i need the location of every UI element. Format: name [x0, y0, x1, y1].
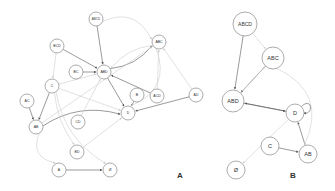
edge-ac-to-ab	[29, 108, 33, 120]
node-bd: BD	[70, 145, 84, 159]
node-label: ABCD	[92, 17, 101, 21]
node-abd: ABD	[222, 90, 244, 112]
node-label: BC	[74, 70, 79, 74]
panel-b-label: B	[290, 171, 296, 180]
edge-bcd-to-c	[53, 53, 56, 78]
node-label: C	[268, 143, 272, 149]
node-d: D	[121, 106, 135, 120]
panel-b-nodes: ABCDABCABDDCABØ	[222, 12, 317, 179]
panel-a-graph: ABCDBCDBCABDABCCBACDADACABCDDBDAØ A	[20, 12, 203, 180]
node-d: D	[286, 104, 304, 122]
node-label: ABC	[267, 55, 278, 61]
edge-ab-to-a	[37, 133, 56, 163]
node-cd: CD	[71, 115, 85, 129]
edge-abcd-to-abc	[253, 33, 266, 48]
edge-abcd-to-abc	[103, 17, 152, 39]
node-label: AC	[25, 99, 30, 103]
node-label: AD	[194, 93, 199, 97]
node-bcd: BCD	[50, 39, 64, 53]
edge-acd-to-abd	[111, 75, 150, 93]
node-label: Ø	[234, 167, 239, 173]
node-ab: AB	[29, 120, 43, 134]
edge-d-to-abd	[245, 103, 286, 111]
node-abd: ABD	[97, 65, 111, 79]
node-label: Ø	[109, 168, 112, 172]
node-acd: ACD	[150, 89, 164, 103]
node-label: BCD	[53, 44, 61, 48]
node-abcd: ABCD	[89, 12, 103, 26]
node-empty: Ø	[227, 161, 245, 179]
node-a: A	[52, 163, 66, 177]
edge-bcd-to-abd	[63, 49, 97, 68]
node-label: D	[293, 110, 297, 116]
edge-c-to-d	[59, 88, 121, 110]
node-label: ABD	[227, 98, 238, 104]
edge-abd-to-abc	[240, 67, 264, 93]
node-b: B	[130, 88, 144, 102]
node-abc: ABC	[152, 35, 166, 49]
node-label: AB	[34, 125, 39, 129]
node-ad: AD	[189, 88, 203, 102]
edge-c-to-ab	[279, 148, 298, 152]
node-c: C	[45, 79, 59, 93]
panel-a-label: A	[177, 171, 183, 180]
edge-bd-to-d	[83, 118, 122, 148]
edge-abd-to-d	[108, 78, 124, 106]
node-ab: AB	[299, 145, 317, 163]
panel-b-graph: ABCDABCABDDCABØ B	[222, 12, 317, 180]
node-ac: AC	[20, 94, 34, 108]
node-label: BD	[75, 150, 80, 154]
edge-abcd-to-abd	[235, 36, 243, 89]
edge-abcd-to-abd	[97, 26, 103, 64]
edge-abc-to-abd	[111, 45, 153, 68]
node-label: ABCD	[238, 21, 252, 27]
edge-c-to-ab	[39, 93, 50, 120]
node-label: CD	[75, 120, 81, 124]
node-abc: ABC	[262, 47, 284, 69]
state-transition-diagram: ABCDBCDBCABDABCCBACDADACABCDDBDAØ A ABCD…	[0, 0, 335, 191]
node-c: C	[261, 137, 279, 155]
panel-a-nodes: ABCDBCDBCABDABCCBACDADACABCDDBDAØ	[20, 12, 203, 177]
node-label: AB	[304, 151, 312, 157]
edge-abd-to-abc	[110, 46, 152, 69]
edge-ab-to-d	[298, 123, 305, 146]
node-abcd: ABCD	[233, 12, 257, 36]
node-bc: BC	[69, 65, 83, 79]
node-label: ACD	[153, 94, 161, 98]
node-empty: Ø	[103, 163, 117, 177]
node-label: ABC	[155, 40, 163, 44]
edge-ad-to-abc	[164, 49, 192, 90]
node-label: ABD	[100, 70, 108, 74]
